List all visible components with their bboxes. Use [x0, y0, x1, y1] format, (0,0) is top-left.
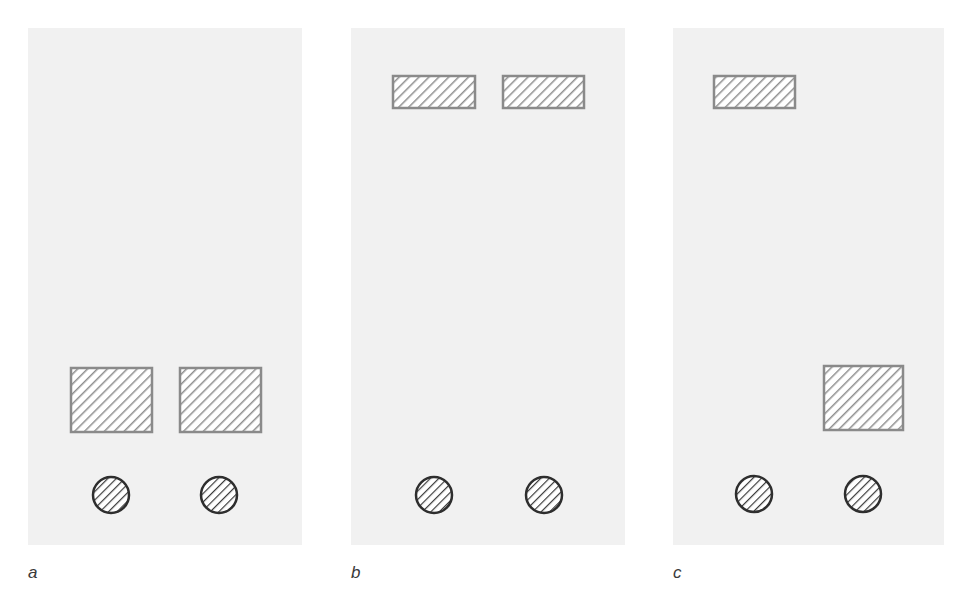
hatched-circle [526, 477, 562, 513]
hatched-circle [845, 476, 881, 512]
hatched-circle [416, 477, 452, 513]
panel-label: c [673, 563, 682, 582]
hatched-circle [93, 477, 129, 513]
panel-label: b [351, 563, 360, 582]
hatched-rectangle [714, 76, 795, 108]
hatched-rectangle [503, 76, 584, 108]
hatched-rectangle [824, 366, 903, 430]
panel-a: a [28, 28, 302, 582]
hatched-rectangle [71, 368, 152, 432]
hatched-circle [736, 476, 772, 512]
hatched-rectangle [393, 76, 475, 108]
hatched-rectangle [180, 368, 261, 432]
panel-label: a [28, 563, 37, 582]
panel-b: b [351, 28, 625, 582]
panel-background [28, 28, 302, 545]
three-panel-diagram: abc [0, 0, 966, 593]
panel-c: c [673, 28, 944, 582]
hatched-circle [201, 477, 237, 513]
